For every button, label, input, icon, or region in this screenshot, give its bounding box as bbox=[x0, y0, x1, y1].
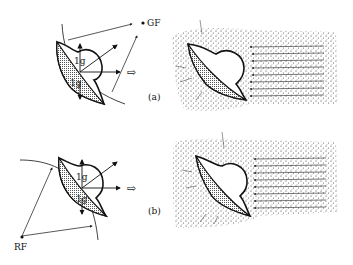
flow-field-image-b bbox=[173, 132, 338, 228]
flow-field-image-a bbox=[172, 20, 338, 111]
force-label-upper: 1g bbox=[74, 56, 86, 66]
force-label-lower: 1g bbox=[70, 78, 82, 88]
rf-line bbox=[22, 168, 52, 236]
panel-label-b: (b) bbox=[148, 206, 161, 216]
panel-label-a: (a) bbox=[148, 92, 160, 102]
force-label-upper: 1g bbox=[76, 172, 88, 182]
panel-b: RF 1g 1g ⇨ (b) bbox=[14, 132, 338, 252]
rf-label: RF bbox=[14, 242, 27, 252]
panel-a: GF 1g 1g ⇨ (a) bbox=[57, 18, 338, 111]
gf-line bbox=[112, 36, 137, 92]
rf-line bbox=[22, 226, 92, 236]
flow-arrow: ⇨ bbox=[127, 66, 136, 79]
force-label-lower: 1g bbox=[76, 194, 88, 204]
gf-label: GF bbox=[147, 18, 160, 28]
flow-arrow: ⇨ bbox=[127, 182, 136, 195]
rf-point bbox=[20, 235, 23, 238]
gf-line bbox=[68, 24, 132, 40]
gf-point bbox=[141, 21, 144, 24]
